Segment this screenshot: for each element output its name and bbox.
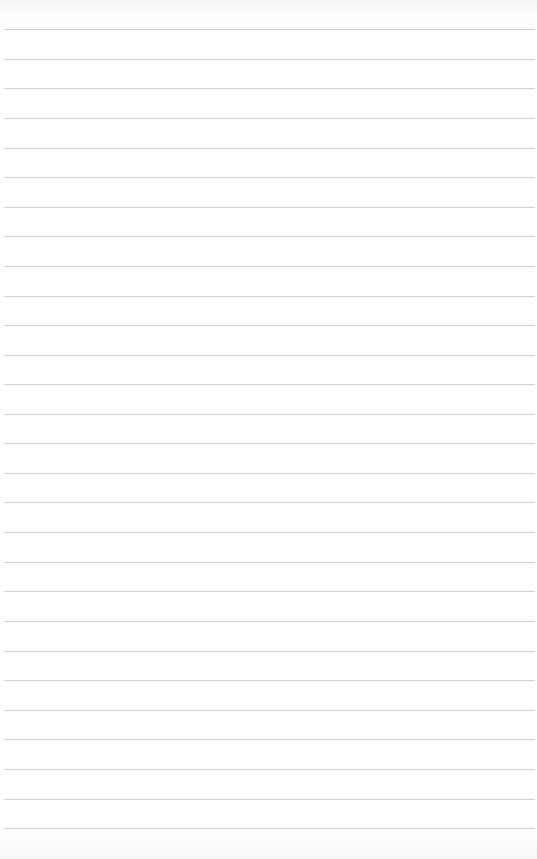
- ruled-line: [4, 532, 535, 533]
- ruled-line: [4, 414, 535, 415]
- lined-paper: [0, 0, 537, 859]
- ruled-line: [4, 562, 535, 563]
- ruled-line: [4, 59, 535, 60]
- ruled-line: [4, 828, 535, 829]
- ruled-line: [4, 621, 535, 622]
- ruled-line: [4, 769, 535, 770]
- ruled-line: [4, 710, 535, 711]
- ruled-line: [4, 207, 535, 208]
- ruled-line: [4, 355, 535, 356]
- ruled-line: [4, 296, 535, 297]
- ruled-line: [4, 266, 535, 267]
- ruled-line: [4, 236, 535, 237]
- ruled-line: [4, 739, 535, 740]
- ruled-line: [4, 88, 535, 89]
- ruled-line: [4, 443, 535, 444]
- ruled-line: [4, 325, 535, 326]
- ruled-line: [4, 651, 535, 652]
- ruled-line: [4, 384, 535, 385]
- ruled-line: [4, 680, 535, 681]
- ruled-line: [4, 177, 535, 178]
- ruled-line: [4, 799, 535, 800]
- ruled-line: [4, 502, 535, 503]
- ruled-line: [4, 473, 535, 474]
- ruled-line: [4, 591, 535, 592]
- ruled-line: [4, 118, 535, 119]
- ruled-line: [4, 29, 535, 30]
- ruled-line: [4, 148, 535, 149]
